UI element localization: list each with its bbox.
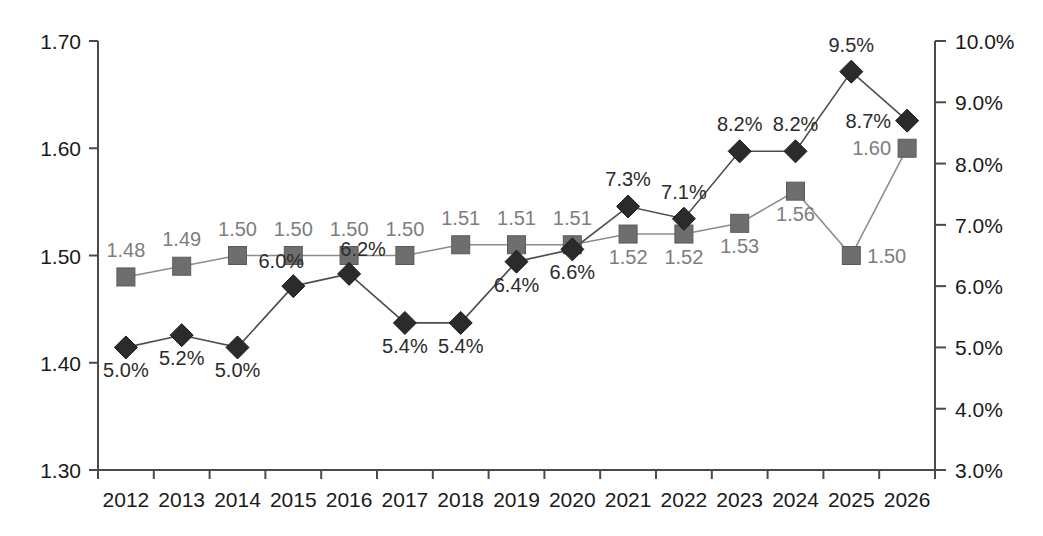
x-category-label-2021: 2021 bbox=[605, 488, 652, 511]
marker-square-2013[interactable] bbox=[173, 257, 191, 275]
marker-square-2018[interactable] bbox=[452, 236, 470, 254]
x-category-label-2012: 2012 bbox=[103, 488, 150, 511]
left-tick-label: 1.70 bbox=[40, 30, 81, 53]
x-category-label-2025: 2025 bbox=[828, 488, 875, 511]
data-label-value-series-2013: 1.49 bbox=[162, 228, 201, 250]
x-axis-category-labels: 2012201320142015201620172018201920202021… bbox=[103, 488, 931, 511]
data-label-value-series-2019: 1.51 bbox=[497, 207, 536, 229]
marker-diamond-2012[interactable] bbox=[114, 336, 137, 359]
chart-container: 1.701.601.501.401.30 10.0%9.0%8.0%7.0%6.… bbox=[0, 0, 1043, 536]
marker-square-2021[interactable] bbox=[619, 225, 637, 243]
left-tick-label: 1.50 bbox=[40, 245, 81, 268]
right-axis-tick-labels: 10.0%9.0%8.0%7.0%6.0%5.0%4.0%3.0% bbox=[955, 30, 1015, 482]
marker-square-2025[interactable] bbox=[842, 247, 860, 265]
left-axis: 1.701.601.501.401.30 bbox=[40, 30, 98, 482]
dual-axis-line-chart: 1.701.601.501.401.30 10.0%9.0%8.0%7.0%6.… bbox=[0, 0, 1043, 536]
marker-diamond-2024[interactable] bbox=[784, 140, 807, 163]
left-tick-label: 1.40 bbox=[40, 352, 81, 375]
right-tick-label: 9.0% bbox=[955, 91, 1003, 114]
data-label-percent-series-2021: 7.3% bbox=[605, 168, 651, 190]
data-label-value-series-2021: 1.52 bbox=[609, 246, 648, 268]
left-tick-label: 1.60 bbox=[40, 137, 81, 160]
x-category-label-2015: 2015 bbox=[270, 488, 317, 511]
x-category-label-2013: 2013 bbox=[158, 488, 205, 511]
data-label-value-series-2024: 1.56 bbox=[776, 203, 815, 225]
x-axis-ticks bbox=[98, 470, 935, 479]
right-tick-label: 5.0% bbox=[955, 336, 1003, 359]
data-label-value-series-2026: 1.60 bbox=[852, 137, 891, 159]
data-label-value-series-2017: 1.50 bbox=[385, 218, 424, 240]
data-label-percent-series-2025: 9.5% bbox=[829, 34, 875, 56]
data-label-value-series-2025: 1.50 bbox=[867, 245, 906, 267]
marker-diamond-2013[interactable] bbox=[170, 324, 193, 347]
data-label-percent-series-2026: 8.7% bbox=[846, 110, 892, 132]
data-label-percent-series-2015: 6.0% bbox=[259, 250, 305, 272]
marker-square-2014[interactable] bbox=[229, 247, 247, 265]
x-category-label-2023: 2023 bbox=[716, 488, 763, 511]
x-category-label-2017: 2017 bbox=[382, 488, 429, 511]
marker-diamond-2023[interactable] bbox=[728, 140, 751, 163]
data-label-value-series-2012: 1.48 bbox=[106, 239, 145, 261]
left-axis-ticks bbox=[89, 41, 98, 470]
right-axis: 10.0%9.0%8.0%7.0%6.0%5.0%4.0%3.0% bbox=[935, 30, 1015, 482]
data-label-percent-series-2023: 8.2% bbox=[717, 113, 763, 135]
data-label-percent-series-2014: 5.0% bbox=[215, 359, 261, 381]
data-label-percent-series-2022: 7.1% bbox=[661, 181, 707, 203]
x-category-label-2016: 2016 bbox=[326, 488, 373, 511]
marker-square-2024[interactable] bbox=[787, 182, 805, 200]
right-tick-label: 10.0% bbox=[955, 30, 1015, 53]
data-label-percent-series-2020: 6.6% bbox=[550, 261, 596, 283]
right-tick-label: 6.0% bbox=[955, 275, 1003, 298]
data-label-value-series-2023: 1.53 bbox=[720, 235, 759, 257]
marker-square-2012[interactable] bbox=[117, 268, 135, 286]
data-label-percent-series-2016: 6.2% bbox=[340, 238, 386, 260]
x-category-label-2024: 2024 bbox=[772, 488, 819, 511]
right-axis-ticks bbox=[935, 41, 946, 470]
right-tick-label: 4.0% bbox=[955, 398, 1003, 421]
x-category-label-2020: 2020 bbox=[549, 488, 596, 511]
data-label-value-series-2014: 1.50 bbox=[218, 218, 257, 240]
marker-square-2023[interactable] bbox=[731, 214, 749, 232]
data-label-value-series-2020: 1.51 bbox=[553, 207, 592, 229]
data-label-percent-series-2018: 5.4% bbox=[438, 335, 484, 357]
data-label-value-series-2018: 1.51 bbox=[441, 207, 480, 229]
data-label-percent-series-2012: 5.0% bbox=[103, 359, 149, 381]
data-label-percent-series-2013: 5.2% bbox=[159, 347, 205, 369]
data-label-percent-series-2019: 6.4% bbox=[494, 274, 540, 296]
data-label-value-series-2015: 1.50 bbox=[274, 218, 313, 240]
plot-area: 1.481.491.501.501.501.501.511.511.511.52… bbox=[103, 34, 918, 382]
left-tick-label: 1.30 bbox=[40, 459, 81, 482]
right-tick-label: 8.0% bbox=[955, 153, 1003, 176]
data-label-value-series-2016: 1.50 bbox=[330, 218, 369, 240]
data-label-value-series-2022: 1.52 bbox=[664, 246, 703, 268]
x-category-label-2022: 2022 bbox=[661, 488, 708, 511]
data-label-percent-series-2017: 5.4% bbox=[382, 335, 428, 357]
data-label-percent-series-2024: 8.2% bbox=[773, 113, 819, 135]
left-axis-tick-labels: 1.701.601.501.401.30 bbox=[40, 30, 81, 482]
marker-diamond-2021[interactable] bbox=[617, 195, 640, 218]
x-category-label-2014: 2014 bbox=[214, 488, 261, 511]
marker-square-2026[interactable] bbox=[898, 139, 916, 157]
right-tick-label: 3.0% bbox=[955, 459, 1003, 482]
x-category-label-2018: 2018 bbox=[437, 488, 484, 511]
x-category-label-2026: 2026 bbox=[884, 488, 931, 511]
x-category-label-2019: 2019 bbox=[493, 488, 540, 511]
right-tick-label: 7.0% bbox=[955, 214, 1003, 237]
marker-square-2017[interactable] bbox=[396, 247, 414, 265]
x-axis: 2012201320142015201620172018201920202021… bbox=[98, 470, 935, 511]
